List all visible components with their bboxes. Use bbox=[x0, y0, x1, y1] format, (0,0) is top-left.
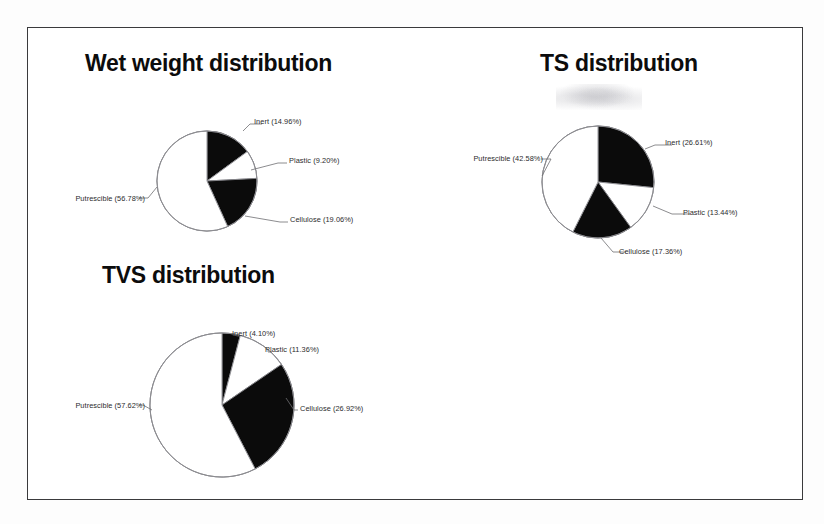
scanned-page: Wet weight distribution Inert (14.96%) P… bbox=[0, 0, 824, 524]
pie-label-tvs-inert: Inert (4.10%) bbox=[232, 329, 275, 338]
pie-tvs bbox=[0, 0, 824, 524]
pie-label-tvs-cellulose: Cellulose (26.92%) bbox=[300, 404, 363, 413]
chart-tvs-distribution: TVS distribution Inert (4.10%) Plastic (… bbox=[0, 0, 824, 524]
pie-label-tvs-putrescible: Putrescible (57.62%) bbox=[0, 401, 145, 410]
pie-label-tvs-plastic: Plastic (11.36%) bbox=[265, 345, 319, 354]
